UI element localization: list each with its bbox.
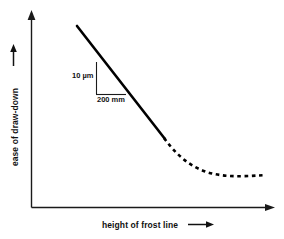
y-axis-title-container: ease of draw-down [0, 0, 26, 239]
x-axis-title-arrow-icon [206, 221, 214, 228]
slope-triangle-rise-label: 10 µm [72, 71, 93, 80]
data-curve-solid-segment [77, 26, 165, 139]
y-axis-title: ease of draw-down [10, 57, 20, 197]
x-axis-arrowhead-icon [265, 204, 275, 211]
x-axis-title: height of frost line [102, 220, 178, 230]
chart-plot-area [0, 0, 284, 239]
slope-triangle-run-label: 200 mm [97, 95, 125, 104]
y-axis-arrowhead-icon [28, 10, 36, 20]
chart-figure: 10 µm 200 mm height of frost line ease o… [0, 0, 284, 239]
data-curve-dashed-segment [164, 138, 266, 176]
